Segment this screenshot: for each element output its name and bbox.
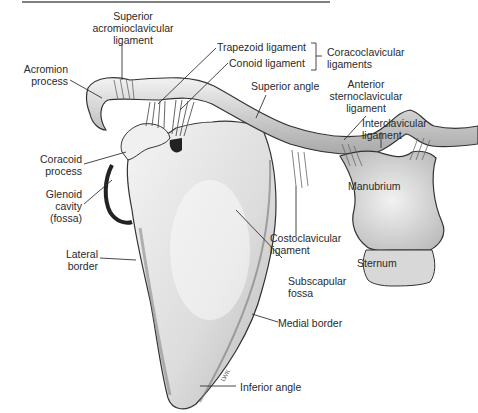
label-line: (fossa) [20, 212, 82, 224]
label-acromion-process: Acromion process [10, 63, 68, 87]
label-line: Costoclavicular [270, 232, 341, 244]
label-line: Acromion [10, 63, 68, 75]
label-line: border [40, 260, 98, 272]
label-trapezoid-ligament: Trapezoid ligament [217, 41, 306, 53]
label-interclavicular-ligament: Interclavicular ligament [362, 117, 427, 141]
label-line: process [10, 75, 68, 87]
label-line: Subscapular [288, 275, 346, 287]
label-line: cavity [20, 200, 82, 212]
label-line: ligament [270, 244, 341, 256]
label-line: ligament [362, 129, 427, 141]
label-line: Lateral [40, 248, 98, 260]
label-line: Coracoid [20, 153, 82, 165]
label-costoclavicular-ligament: Costoclavicular ligament [270, 232, 341, 256]
label-line: ligament [324, 102, 408, 114]
label-glenoid-cavity: Glenoid cavity (fossa) [20, 188, 82, 224]
label-line: Superior [88, 10, 178, 22]
label-anterior-sternoclavicular-ligament: Anterior sternoclavicular ligament [324, 78, 408, 114]
label-subscapular-fossa: Subscapular fossa [288, 275, 346, 299]
label-line: acromioclavicular [88, 22, 178, 34]
label-conoid-ligament: Conoid ligament [229, 57, 305, 69]
manubrium-shape [340, 151, 444, 250]
anatomy-figure: LWK [0, 0, 478, 413]
label-line: ligament [88, 34, 178, 46]
label-line: sternoclavicular [324, 90, 408, 102]
label-medial-border: Medial border [278, 317, 342, 329]
label-inferior-angle: Inferior angle [240, 381, 301, 393]
label-line: ligaments [327, 58, 405, 70]
label-line: process [20, 165, 82, 177]
label-line: Glenoid [20, 188, 82, 200]
label-line: fossa [288, 287, 346, 299]
label-sternum: Sternum [357, 257, 397, 269]
label-superior-acromioclavicular-ligament: Superior acromioclavicular ligament [88, 10, 178, 46]
label-lateral-border: Lateral border [40, 248, 98, 272]
label-coracoclavicular-ligaments: Coracoclavicular ligaments [327, 46, 405, 70]
label-superior-angle: Superior angle [251, 80, 319, 92]
label-line: Anterior [324, 78, 408, 90]
label-line: Coracoclavicular [327, 46, 405, 58]
label-coracoid-process: Coracoid process [20, 153, 82, 177]
label-manubrium: Manubrium [348, 180, 401, 192]
label-line: Interclavicular [362, 117, 427, 129]
